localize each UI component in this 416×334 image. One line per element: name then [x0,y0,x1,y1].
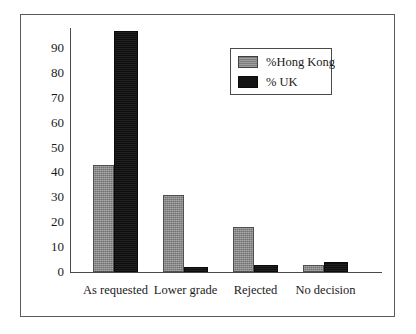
y-tick-label: 20 [38,215,64,228]
bar-hong-kong [93,165,114,272]
bar-hong-kong [163,195,184,272]
legend: %Hong Kong % UK [230,48,332,95]
category-label: Rejected [234,283,278,297]
y-tick-label: 50 [38,141,64,154]
figure: 0102030405060708090 As requestedLower gr… [0,0,416,334]
category-label: No decision [295,283,355,297]
legend-item-uk: % UK [238,75,330,89]
legend-label-hong-kong: %Hong Kong [266,55,335,69]
legend-label-uk: % UK [266,75,298,89]
bars-layer [70,28,382,272]
y-tick-label: 0 [38,265,64,278]
y-tick-label: 40 [38,165,64,178]
y-tick-label: 80 [38,66,64,79]
y-tick-label: 70 [38,91,64,104]
bar-uk [254,265,278,272]
legend-item-hong-kong: %Hong Kong [238,55,330,69]
y-axis-tick-labels: 0102030405060708090 [36,0,64,334]
legend-swatch-uk [238,76,258,88]
category-label: As requested [83,283,148,297]
bar-hong-kong [233,227,254,272]
bar-uk [324,262,348,272]
bar-uk [114,31,138,273]
legend-swatch-hong-kong [238,56,258,68]
category-label: Lower grade [154,283,218,297]
y-tick-label: 60 [38,116,64,129]
x-axis-line [70,272,382,273]
y-tick-label: 30 [38,190,64,203]
bar-hong-kong [303,265,324,272]
y-tick-label: 10 [38,240,64,253]
bar-uk [184,267,208,272]
y-tick-label: 90 [38,41,64,54]
